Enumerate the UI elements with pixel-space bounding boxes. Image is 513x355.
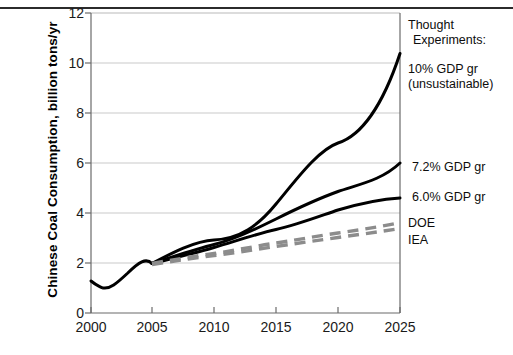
gridlines — [91, 13, 400, 263]
annotation-thought-experiments-line2: Experiments: — [413, 33, 486, 48]
plot-area — [0, 0, 513, 355]
series-historical — [91, 261, 152, 288]
annotation-series-10pct-line1: 10% GDP gr — [408, 62, 478, 77]
series-60pct — [152, 198, 400, 264]
annotation-series-60pct: 6.0% GDP gr — [412, 190, 485, 205]
annotation-thought-experiments-line1: Thought — [408, 18, 454, 33]
annotation-series-72pct: 7.2% GDP gr — [412, 160, 485, 175]
series-10pct — [152, 54, 400, 264]
annotation-series-iea: IEA — [408, 233, 428, 248]
annotation-series-doe: DOE — [408, 216, 435, 231]
chart-figure: Chinese Coal Consumption, billion tons/y… — [0, 0, 513, 355]
series-historical-fix — [91, 260, 152, 288]
annotation-series-10pct-line2: (unsustainable) — [408, 77, 493, 92]
